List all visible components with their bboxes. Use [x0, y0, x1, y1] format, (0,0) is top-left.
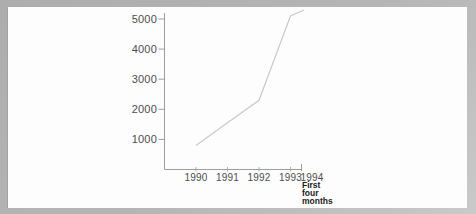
note-line: months: [302, 197, 333, 205]
y-tick-label: 3000: [111, 74, 157, 85]
y-tick-label: 4000: [111, 44, 157, 55]
x-axis-note-first-four-months: First four months: [302, 181, 333, 205]
chart-labels-layer: First four months 1000200030004000500019…: [0, 0, 476, 214]
y-tick-label: 2000: [111, 104, 157, 115]
scanned-page-background: First four months 1000200030004000500019…: [0, 0, 476, 214]
y-tick-label: 1000: [111, 134, 157, 145]
y-tick-label: 5000: [111, 14, 157, 25]
x-tick-label: 1994: [290, 173, 334, 183]
